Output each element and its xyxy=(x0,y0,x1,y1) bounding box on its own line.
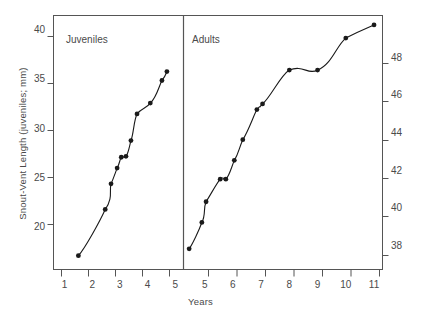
data-point xyxy=(124,154,129,159)
data-point xyxy=(260,102,265,107)
data-point xyxy=(103,207,108,212)
x-tick-label-adults: 7 xyxy=(249,279,273,290)
chart-canvas xyxy=(0,0,430,319)
series-adults xyxy=(187,23,377,252)
panel-label-juveniles: Juveniles xyxy=(66,34,108,45)
y-tick-label-adults: 44 xyxy=(391,127,415,138)
x-tick-label-juveniles: 5 xyxy=(163,279,187,290)
y-tick-label-juveniles: 20 xyxy=(21,221,45,232)
data-point xyxy=(76,253,81,258)
fitted-curve-adults xyxy=(189,25,374,249)
x-tick-label-adults: 9 xyxy=(306,279,330,290)
x-axis-ticks-adults xyxy=(209,270,380,277)
data-point xyxy=(240,137,245,142)
panel-label-adults: Adults xyxy=(192,34,220,45)
x-tick-label-adults: 8 xyxy=(277,279,301,290)
data-point xyxy=(119,155,124,160)
data-point xyxy=(287,68,292,73)
data-point xyxy=(165,69,170,74)
y-axis-left-ticks xyxy=(48,37,54,225)
y-axis-right-ticks xyxy=(383,64,389,256)
x-axis-ticks-juveniles xyxy=(62,270,170,277)
y-tick-label-adults: 42 xyxy=(391,165,415,176)
data-point xyxy=(223,177,228,182)
figure-container: Juveniles Adults Snout-Vent Length (juve… xyxy=(0,0,430,319)
y-tick-label-juveniles: 30 xyxy=(21,123,45,134)
series-juveniles xyxy=(76,69,169,258)
data-point xyxy=(372,23,377,28)
y-tick-label-adults: 40 xyxy=(391,202,415,213)
y-tick-label-juveniles: 25 xyxy=(21,172,45,183)
x-axis-title: Years xyxy=(188,296,213,307)
x-tick-label-juveniles: 3 xyxy=(108,279,132,290)
y-tick-label-adults: 38 xyxy=(391,240,415,251)
data-points-adults xyxy=(187,23,377,252)
fitted-curve-juveniles xyxy=(78,72,167,256)
data-point xyxy=(232,158,237,163)
data-point xyxy=(187,246,192,251)
data-point xyxy=(135,112,140,117)
x-tick-label-adults: 5 xyxy=(193,279,217,290)
data-point xyxy=(204,199,209,204)
plot-frame xyxy=(54,16,383,270)
y-tick-label-adults: 46 xyxy=(391,89,415,100)
data-points-juveniles xyxy=(76,69,169,258)
data-point xyxy=(115,166,120,171)
y-tick-label-juveniles: 35 xyxy=(21,73,45,84)
x-tick-label-juveniles: 1 xyxy=(53,279,77,290)
data-point xyxy=(218,177,223,182)
data-point xyxy=(129,138,134,143)
x-tick-label-juveniles: 4 xyxy=(136,279,160,290)
data-point xyxy=(343,36,348,41)
x-tick-label-juveniles: 2 xyxy=(80,279,104,290)
x-tick-label-adults: 11 xyxy=(362,279,386,290)
data-point xyxy=(254,107,259,112)
data-point xyxy=(315,68,320,73)
x-tick-label-adults: 10 xyxy=(334,279,358,290)
data-point xyxy=(109,181,114,186)
data-point xyxy=(148,101,153,106)
data-point xyxy=(199,220,204,225)
data-point xyxy=(160,78,165,83)
y-tick-label-juveniles: 40 xyxy=(21,24,45,35)
y-tick-label-adults: 48 xyxy=(391,52,415,63)
x-tick-label-adults: 6 xyxy=(221,279,245,290)
